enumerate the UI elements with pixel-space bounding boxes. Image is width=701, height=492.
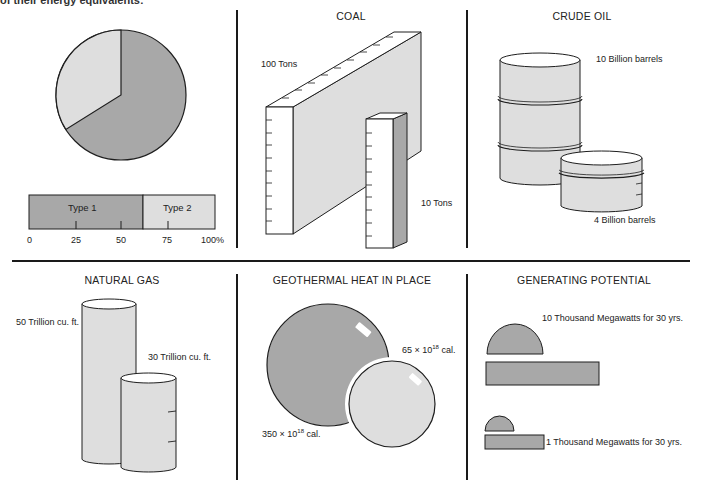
generating-potential-illustration	[0, 0, 701, 492]
